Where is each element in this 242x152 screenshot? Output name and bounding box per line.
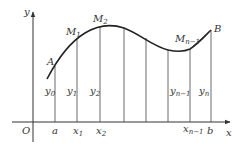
- ordinate-label-y0: y0: [44, 85, 56, 98]
- ordinate-label-y2: y2: [89, 85, 101, 98]
- point-label-M2: M2: [92, 13, 108, 26]
- point-label-M1: M1: [65, 26, 81, 39]
- y-axis-label: y: [23, 6, 30, 17]
- tick-x2: x2: [96, 125, 107, 138]
- ordinate-label-yn: yn: [198, 85, 210, 98]
- ordinate-label-y1: y1: [66, 85, 77, 98]
- point-label-Mn-1: Mn−1: [174, 33, 200, 46]
- tick-b: b: [207, 125, 213, 136]
- origin-label: O: [22, 125, 30, 136]
- tick-xn-1: xn−1: [183, 123, 203, 136]
- tick-x1: x1: [73, 125, 83, 138]
- point-label-B: B: [213, 23, 221, 34]
- x-axis-label: x: [226, 127, 232, 138]
- trapezoid-area-diagram: y x O a x1 x2 xn−1 b y0 y1 y2 yn−1 yn A …: [0, 0, 242, 152]
- tick-a: a: [52, 125, 58, 136]
- ordinate-label-yn-1: yn−1: [169, 85, 190, 98]
- point-label-A: A: [46, 56, 54, 67]
